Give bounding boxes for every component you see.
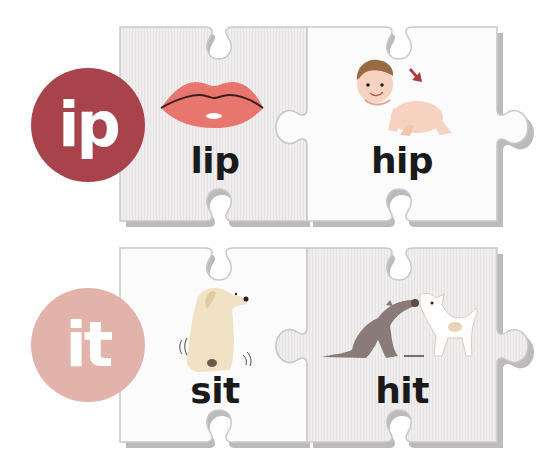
- word-family-badge-it: it: [31, 288, 145, 402]
- puzzle-piece-hit[interactable]: [276, 248, 534, 448]
- word-label-hit: hit: [342, 370, 462, 411]
- word-label-sit: sit: [155, 370, 275, 411]
- word-family-label: ip: [58, 94, 118, 156]
- word-family-label: it: [66, 314, 111, 376]
- word-label-lip: lip: [155, 140, 275, 181]
- word-family-puzzle: ip it lip hip sit hit: [0, 0, 557, 475]
- word-label-hip: hip: [342, 140, 462, 181]
- word-family-badge-ip: ip: [31, 68, 145, 182]
